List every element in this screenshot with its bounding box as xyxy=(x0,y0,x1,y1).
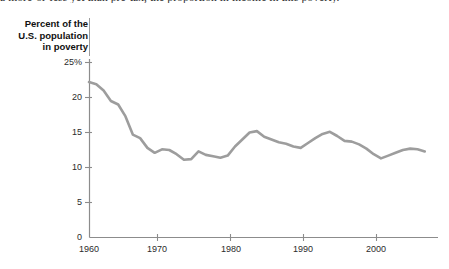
figure-page: a more-or-less yet than pre-tax, the pro… xyxy=(0,0,449,269)
y-tick-label-0: 0 xyxy=(52,232,82,242)
poverty-rate-line xyxy=(89,82,425,160)
poverty-rate-chart: Percent of the U.S. population in povert… xyxy=(0,0,449,269)
y-axis-title: Percent of the U.S. population in povert… xyxy=(8,18,88,53)
x-tick-label-2000: 2000 xyxy=(356,244,396,254)
x-tick-label-1990: 1990 xyxy=(283,244,323,254)
x-tick-label-1980: 1980 xyxy=(211,244,251,254)
y-tick-label-15: 15 xyxy=(52,127,82,137)
y-tick-label-5: 5 xyxy=(52,197,82,207)
x-tick-label-1960: 1960 xyxy=(69,244,109,254)
y-tick-label-25: 25% xyxy=(52,57,82,67)
x-tick-label-1970: 1970 xyxy=(137,244,177,254)
y-tick-label-20: 20 xyxy=(52,92,82,102)
y-tick-label-10: 10 xyxy=(52,162,82,172)
